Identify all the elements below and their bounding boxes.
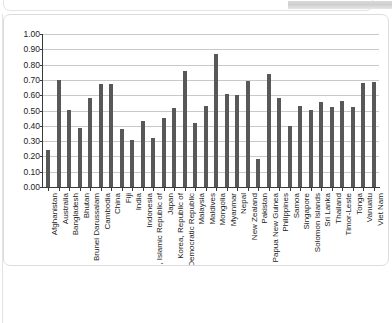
- bar-slot[interactable]: [285, 34, 296, 187]
- bar-slot[interactable]: [159, 34, 170, 187]
- chart-bar[interactable]: [340, 101, 344, 187]
- bar-slot[interactable]: [117, 34, 128, 187]
- chart-bar[interactable]: [319, 102, 323, 187]
- bar-slot[interactable]: [201, 34, 212, 187]
- y-tick-label: 0.10: [6, 168, 40, 176]
- chart-bar[interactable]: [288, 126, 292, 187]
- bar-slot[interactable]: [148, 34, 159, 187]
- x-tick-label: Thailand: [335, 193, 343, 224]
- bar-slot[interactable]: [75, 34, 86, 187]
- y-tick-label: 0.20: [6, 152, 40, 160]
- x-tick-label: Vanuatu: [366, 193, 374, 222]
- x-tick-label: Brunei Darussalam: [93, 193, 101, 261]
- chart-bar[interactable]: [330, 107, 334, 187]
- bar-slot[interactable]: [243, 34, 254, 187]
- x-tick-mark: [363, 188, 364, 191]
- bar-slot[interactable]: [54, 34, 65, 187]
- x-tick-label: Lao People's Democratic Republic: [188, 193, 196, 266]
- x-tick-mark: [311, 188, 312, 191]
- bar-slot[interactable]: [64, 34, 75, 187]
- bar-slot[interactable]: [43, 34, 54, 187]
- bar-slot[interactable]: [327, 34, 338, 187]
- y-tick-label: 0.00: [6, 183, 40, 191]
- chart-bar[interactable]: [88, 98, 92, 188]
- x-tick-label: Viet Nam: [377, 193, 385, 226]
- chart-bar[interactable]: [57, 80, 61, 187]
- bar-slot[interactable]: [306, 34, 317, 187]
- bar-slot[interactable]: [106, 34, 117, 187]
- chart-bar[interactable]: [67, 110, 71, 187]
- bar-slot[interactable]: [274, 34, 285, 187]
- bar-slot[interactable]: [85, 34, 96, 187]
- chart-bar[interactable]: [162, 118, 166, 187]
- x-tick-mark: [48, 188, 49, 191]
- chart-bar[interactable]: [204, 106, 208, 187]
- chart-bar[interactable]: [246, 81, 250, 187]
- bar-slot[interactable]: [264, 34, 275, 187]
- chart-bar[interactable]: [361, 83, 365, 187]
- plot-area: [43, 34, 379, 187]
- x-tick-mark: [69, 188, 70, 191]
- bar-slot[interactable]: [232, 34, 243, 187]
- chart-bar[interactable]: [130, 140, 134, 187]
- x-tick-mark: [101, 188, 102, 191]
- bar-slot[interactable]: [211, 34, 222, 187]
- bar-slot[interactable]: [337, 34, 348, 187]
- bar-slot[interactable]: [190, 34, 201, 187]
- x-tick-label: Afghanistan: [51, 193, 59, 235]
- y-tick-label: 0.30: [6, 137, 40, 145]
- chart-bar[interactable]: [372, 82, 376, 187]
- chart-bar[interactable]: [172, 108, 176, 187]
- chart-bar[interactable]: [267, 74, 271, 187]
- chart-bar[interactable]: [214, 54, 218, 187]
- bar-slot[interactable]: [96, 34, 107, 187]
- chart-bar[interactable]: [193, 123, 197, 187]
- bar-slot[interactable]: [369, 34, 380, 187]
- x-tick-label: New Zealand: [251, 193, 259, 240]
- chart-bar[interactable]: [99, 84, 103, 187]
- bar-slot[interactable]: [253, 34, 264, 187]
- top-gray-band: [288, 1, 392, 9]
- chart-bar[interactable]: [151, 138, 155, 187]
- y-axis-tick-labels: 1.000.900.800.700.600.500.400.300.200.10…: [4, 34, 40, 188]
- x-tick-mark: [153, 188, 154, 191]
- x-tick-label: Timor-Leste: [345, 193, 353, 235]
- x-tick-mark: [237, 188, 238, 191]
- x-tick-mark: [174, 188, 175, 191]
- bar-slot[interactable]: [127, 34, 138, 187]
- bar-slot[interactable]: [348, 34, 359, 187]
- chart-bar[interactable]: [309, 110, 313, 187]
- chart-bar[interactable]: [225, 94, 229, 187]
- bar-slot[interactable]: [295, 34, 306, 187]
- x-tick-label: Bangladesh: [72, 193, 80, 235]
- x-tick-label: Cambodia: [104, 193, 112, 229]
- bar-slot[interactable]: [316, 34, 327, 187]
- bar-slot[interactable]: [358, 34, 369, 187]
- x-tick-label: Fiji: [125, 193, 133, 203]
- chart-bar[interactable]: [141, 121, 145, 187]
- x-tick-label: Bhutan: [83, 193, 91, 218]
- bar-slot[interactable]: [222, 34, 233, 187]
- x-tick-mark: [290, 188, 291, 191]
- x-tick-label: Sri Lanka: [324, 193, 332, 227]
- x-tick-mark: [353, 188, 354, 191]
- bar-slot[interactable]: [180, 34, 191, 187]
- x-tick-mark: [195, 188, 196, 191]
- chart-bar[interactable]: [109, 84, 113, 187]
- chart-bar[interactable]: [235, 95, 239, 187]
- x-tick-mark: [374, 188, 375, 191]
- chart-bar[interactable]: [298, 106, 302, 187]
- chart-bar[interactable]: [78, 128, 82, 187]
- x-tick-mark: [321, 188, 322, 191]
- chart-bar[interactable]: [183, 71, 187, 187]
- chart-bar[interactable]: [120, 129, 124, 187]
- bar-slot[interactable]: [169, 34, 180, 187]
- x-tick-mark: [279, 188, 280, 191]
- chart-bar[interactable]: [277, 98, 281, 187]
- y-tick-label: 0.90: [6, 45, 40, 53]
- chart-bar[interactable]: [256, 159, 260, 187]
- bar-slot[interactable]: [138, 34, 149, 187]
- chart-bar[interactable]: [46, 150, 50, 187]
- chart-bar[interactable]: [351, 107, 355, 187]
- x-tick-mark: [90, 188, 91, 191]
